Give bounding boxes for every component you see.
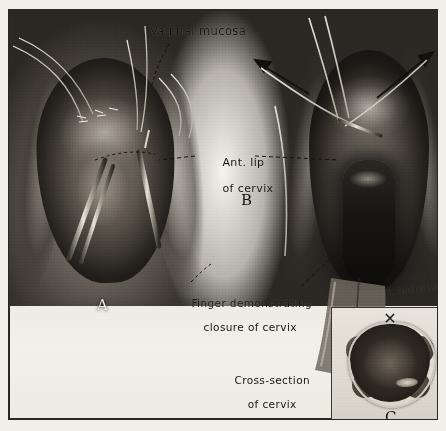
label-cross-section: Cross-section of cervix demonstrating li… xyxy=(205,362,317,420)
label-finger-demonstrating: Finger demonstrating closure of cervix xyxy=(169,285,309,345)
label-cross-line2: of cervix xyxy=(248,398,297,410)
knot-icon: ✕ xyxy=(382,310,398,328)
panel-letter-b: B xyxy=(241,191,252,209)
label-finger-line2: closure of cervix xyxy=(204,321,297,333)
plate-frame: ✕ Vaginal mucosa Ant. lip of cervix Fing… xyxy=(8,9,438,420)
label-ant-lip-line1: Ant. lip xyxy=(222,156,264,169)
label-finger-line1: Finger demonstrating xyxy=(191,297,312,309)
illustration-plate: ✕ Vaginal mucosa Ant. lip of cervix Fing… xyxy=(0,0,446,431)
panel-b-vaginal-canal xyxy=(343,160,395,285)
panel-letter-a: A xyxy=(97,296,108,314)
panel-letter-c: C xyxy=(385,408,396,420)
label-vaginal-mucosa: Vaginal mucosa xyxy=(150,24,246,38)
panel-c-inset: ✕ xyxy=(331,307,438,420)
label-cross-line1: Cross-section xyxy=(234,374,310,386)
label-ant-lip-of-cervix: Ant. lip of cervix xyxy=(199,143,274,208)
